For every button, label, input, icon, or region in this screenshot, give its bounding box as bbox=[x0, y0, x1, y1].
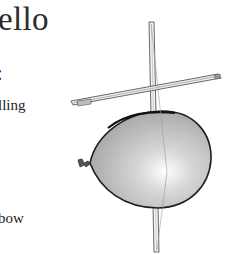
balloon-icon bbox=[78, 111, 211, 208]
balloon-bow-illustration bbox=[0, 0, 250, 254]
document-page: ello : lling bow bbox=[0, 0, 250, 254]
bow-icon bbox=[71, 74, 221, 106]
